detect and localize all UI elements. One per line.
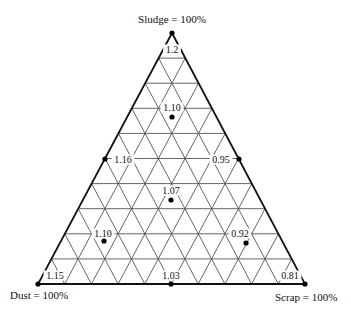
value-label: 0.81 [281, 270, 299, 281]
grid-line [172, 159, 239, 285]
point-marker [101, 238, 106, 243]
point-marker [302, 281, 307, 286]
point-marker [169, 114, 174, 119]
grid-line [118, 108, 212, 284]
grid-line [132, 108, 225, 284]
point-marker [168, 281, 173, 286]
point-marker [35, 281, 40, 286]
value-label: 0.92 [231, 228, 249, 239]
point-marker [102, 156, 107, 161]
ternary-grid [51, 58, 291, 284]
value-label: 0.95 [212, 154, 230, 165]
point-marker [169, 30, 174, 35]
vertex-label-scrap: Scrap = 100% [275, 291, 337, 303]
point-marker [236, 156, 241, 161]
value-label: 1.03 [162, 270, 180, 281]
value-label: 1.16 [114, 154, 132, 165]
value-label: 1.10 [163, 102, 181, 113]
value-label: 1.15 [46, 270, 64, 281]
vertex-label-dust: Dust = 100% [10, 289, 68, 301]
ternary-diagram: 1.21.101.160.951.071.100.921.151.030.81 … [0, 0, 351, 316]
grid-line [225, 209, 265, 284]
grid-line [78, 209, 118, 284]
point-marker [168, 197, 173, 202]
grid-line [159, 58, 279, 284]
vertex-label-sludge: Sludge = 100% [138, 13, 206, 25]
grid-line [105, 159, 172, 285]
value-labels: 1.21.101.160.951.071.100.921.151.030.81 [44, 44, 302, 281]
value-label: 1.2 [166, 44, 179, 55]
grid-line [65, 58, 186, 284]
value-label: 1.10 [94, 228, 112, 239]
point-marker [243, 240, 248, 245]
value-label: 1.07 [162, 185, 180, 196]
